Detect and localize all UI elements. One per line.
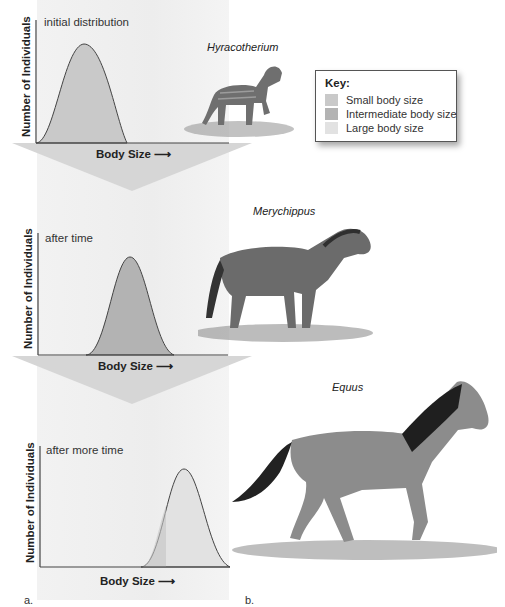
species-label-merychippus: Merychippus [253, 205, 315, 217]
equus-illustration [222, 372, 497, 562]
legend-title: Key: [325, 77, 350, 89]
panel-after-more-time: Number of Individuals after more time Bo… [0, 400, 260, 607]
legend-label: Large body size [346, 122, 424, 134]
swatch-small [325, 94, 338, 106]
species-label-hyracotherium: Hyracotherium [207, 41, 279, 53]
swatch-large [325, 122, 338, 134]
legend-item-small: Small body size [325, 93, 423, 106]
x-axis-label: Body Size ⟶ [96, 147, 171, 161]
legend-item-large: Large body size [325, 121, 424, 134]
hyracotherium-illustration [184, 55, 299, 140]
panel-letter-b: b. [245, 594, 254, 606]
legend-item-intermediate: Intermediate body size [325, 107, 457, 120]
y-axis-label: Number of Individuals [24, 442, 36, 563]
distribution-chart-after-more-time [38, 446, 238, 570]
panel-letter-a: a. [24, 594, 33, 606]
merychippus-illustration [198, 218, 378, 343]
y-axis-label: Number of Individuals [22, 228, 34, 349]
x-axis-label: Body Size ⟶ [100, 574, 175, 588]
legend-key: Key: Small body size Intermediate body s… [315, 70, 457, 142]
y-axis-label: Number of Individuals [20, 16, 32, 137]
x-axis-label: Body Size ⟶ [98, 359, 173, 373]
legend-label: Small body size [346, 94, 423, 106]
swatch-intermediate [325, 108, 338, 120]
legend-label: Intermediate body size [346, 108, 457, 120]
